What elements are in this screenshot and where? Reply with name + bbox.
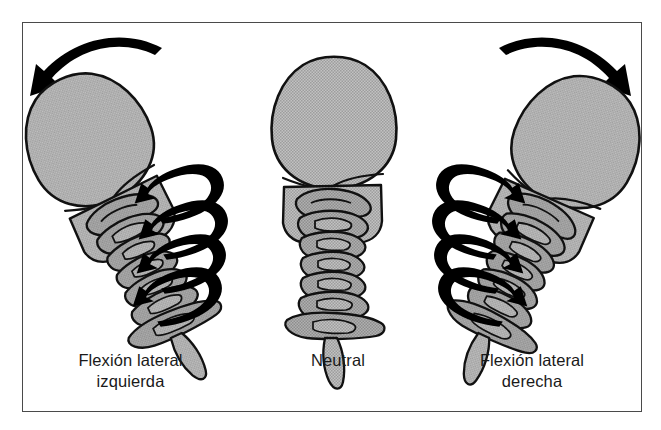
caption-right-lateral-flexion: Flexión lateral derecha [432,350,632,392]
panel-middle-neutral [272,57,397,389]
caption-right-line2: derecha [432,371,632,392]
caption-middle-line1: Neutral [258,350,418,371]
caption-middle-neutral: Neutral [258,350,418,371]
skull-spine-middle [272,57,397,389]
caption-left-line2: izquierda [28,371,233,392]
caption-right-line1: Flexión lateral [432,350,632,371]
caption-left-line1: Flexión lateral [28,350,233,371]
figure-root: Flexión lateral izquierda Neutral Flexió… [0,0,661,430]
caption-left-lateral-flexion: Flexión lateral izquierda [28,350,233,392]
